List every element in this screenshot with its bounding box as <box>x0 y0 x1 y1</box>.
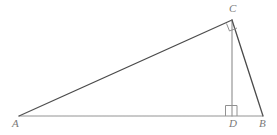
vertex-label-a: A <box>12 118 19 129</box>
figure-canvas <box>0 0 277 135</box>
segment-ac <box>19 20 232 116</box>
vertex-label-d: D <box>229 118 237 129</box>
vertex-label-c: C <box>229 3 236 14</box>
geometry-figure: A C D B <box>0 0 277 135</box>
segment-cb <box>232 20 263 116</box>
vertex-label-b: B <box>259 118 266 129</box>
right-angle-marker-d <box>226 106 238 117</box>
